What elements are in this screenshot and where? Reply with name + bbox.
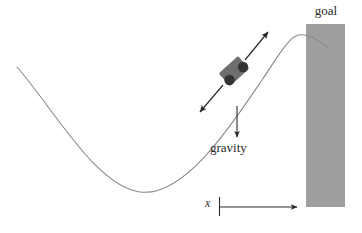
- action-arrow-upslope-icon: [245, 32, 268, 60]
- mountain-car-diagram: goal gravity x: [0, 0, 362, 233]
- diagram-canvas: [0, 0, 362, 233]
- gravity-label: gravity: [210, 141, 247, 154]
- car-rear-wheel: [224, 75, 234, 85]
- goal-label: goal: [306, 4, 346, 17]
- car-front-wheel: [238, 62, 248, 72]
- hill-curve: [17, 35, 327, 193]
- x-axis-label: x: [205, 197, 210, 209]
- car: [219, 56, 250, 86]
- action-arrow-downslope-icon: [200, 85, 223, 112]
- goal-rectangle: [306, 24, 345, 207]
